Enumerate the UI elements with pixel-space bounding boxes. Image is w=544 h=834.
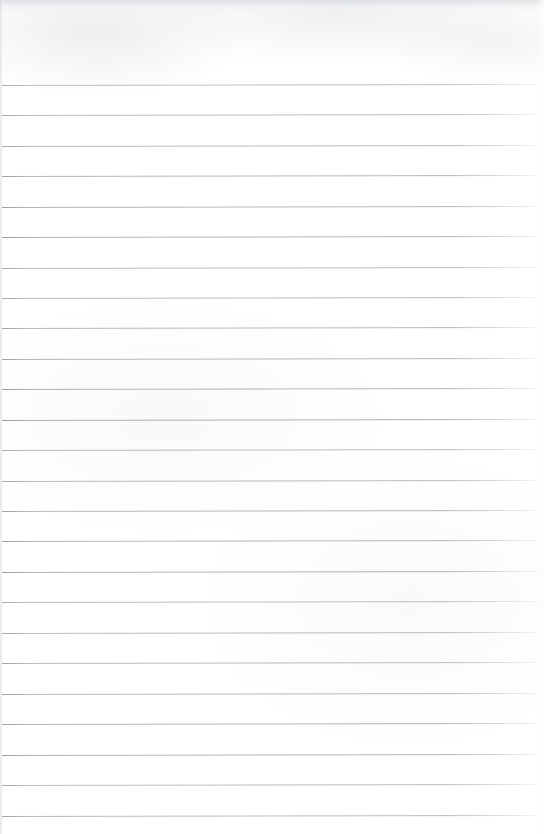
writing-area[interactable] — [2, 85, 537, 830]
notebook-page — [0, 0, 544, 834]
